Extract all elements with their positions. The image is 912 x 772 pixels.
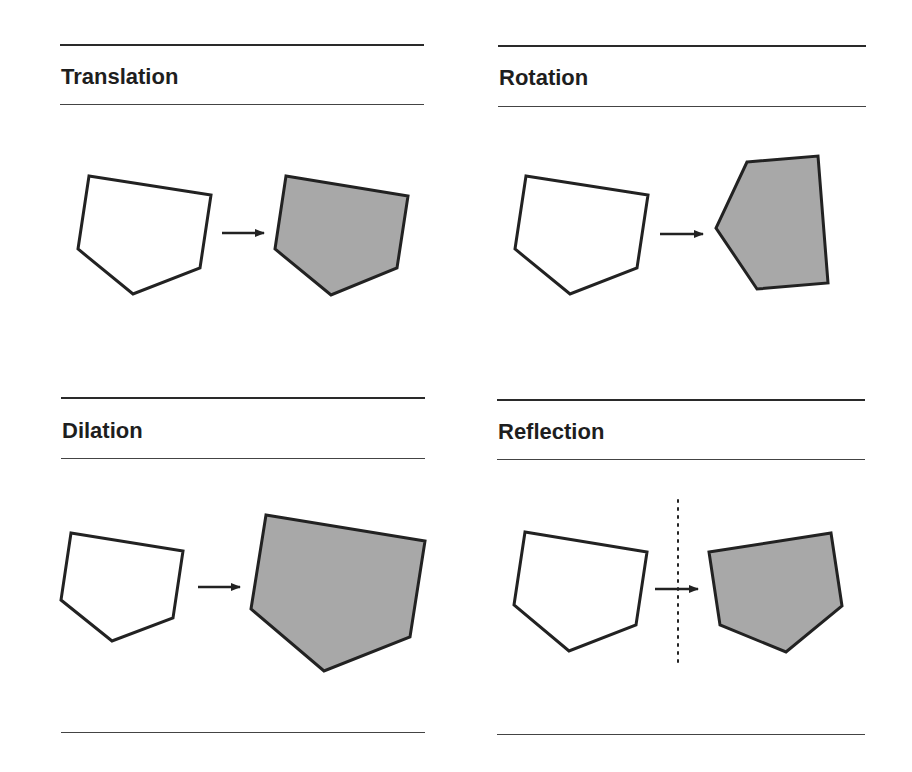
reflected-pentagon [709, 533, 842, 652]
original-pentagon [514, 532, 647, 651]
rotated-pentagon [716, 156, 828, 289]
rotation-figure [515, 156, 828, 294]
dilated-pentagon [251, 515, 425, 671]
original-pentagon [515, 176, 648, 294]
translation-figure [78, 176, 408, 295]
transformation-figures [0, 0, 912, 772]
original-pentagon [61, 533, 183, 641]
reflection-figure [514, 500, 842, 662]
original-pentagon [78, 176, 211, 294]
translated-pentagon [275, 176, 408, 295]
dilation-figure [61, 515, 425, 671]
